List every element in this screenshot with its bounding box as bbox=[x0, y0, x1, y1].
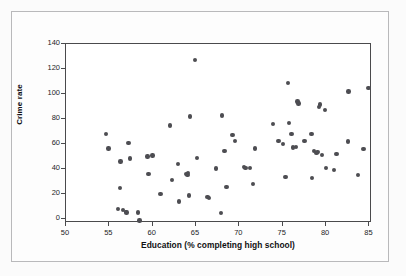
scatter-point bbox=[302, 139, 306, 143]
scatter-point bbox=[106, 146, 110, 150]
scatter-point bbox=[124, 210, 128, 214]
scatter-point bbox=[310, 176, 314, 180]
scatter-point bbox=[315, 150, 319, 154]
scatter-point bbox=[118, 159, 122, 163]
scatter-point bbox=[224, 185, 228, 189]
x-tick-label: 65 bbox=[180, 228, 210, 237]
x-tick-mark bbox=[152, 222, 153, 226]
scatter-point bbox=[356, 173, 360, 177]
scatter-point bbox=[128, 156, 132, 160]
scatter-point bbox=[158, 192, 162, 196]
scatter-point bbox=[289, 132, 293, 136]
scatter-point bbox=[104, 132, 108, 136]
scatter-point bbox=[220, 113, 224, 117]
scatter-point bbox=[253, 146, 257, 150]
scatter-point bbox=[251, 182, 255, 186]
y-tick-label: 20 bbox=[52, 189, 60, 197]
y-axis-title: Crime rate bbox=[15, 60, 24, 150]
scatter-point bbox=[188, 114, 192, 118]
y-tick-mark bbox=[61, 43, 65, 44]
scatter-point bbox=[294, 145, 298, 149]
scatter-point bbox=[271, 122, 275, 126]
y-tick-mark bbox=[61, 218, 65, 219]
scatter-point bbox=[222, 149, 226, 153]
scatter-point bbox=[334, 152, 338, 156]
scatter-point bbox=[137, 218, 141, 222]
scatter-point bbox=[346, 139, 350, 143]
scatter-point bbox=[214, 166, 218, 170]
scatter-point bbox=[248, 166, 252, 170]
x-tick-mark bbox=[282, 222, 283, 226]
x-tick-mark bbox=[368, 222, 369, 226]
scatter-point bbox=[230, 133, 234, 137]
x-tick-label: 60 bbox=[137, 228, 167, 237]
scatter-point bbox=[187, 193, 191, 197]
scatter-point bbox=[146, 172, 150, 176]
y-tick-label: 120 bbox=[47, 64, 60, 72]
y-tick-mark bbox=[61, 93, 65, 94]
scatter-point bbox=[145, 154, 149, 158]
scatter-point bbox=[281, 142, 285, 146]
page-background: 020406080100120140 Crime rate Education … bbox=[0, 0, 406, 276]
y-tick-mark bbox=[61, 118, 65, 119]
scatter-point bbox=[346, 89, 350, 93]
y-tick-label: 100 bbox=[47, 89, 60, 97]
scatter-point bbox=[193, 58, 197, 62]
scatter-point bbox=[168, 123, 172, 127]
scatter-point bbox=[126, 141, 130, 145]
y-tick-mark bbox=[61, 68, 65, 69]
x-tick-label: 55 bbox=[93, 228, 123, 237]
scatter-point bbox=[296, 101, 300, 105]
x-axis-title: Education (% completing high school) bbox=[65, 240, 371, 250]
scatter-point bbox=[276, 139, 280, 143]
scatter-point bbox=[195, 156, 199, 160]
scatter-point bbox=[118, 186, 122, 190]
scatter-point bbox=[320, 153, 324, 157]
scatter-point bbox=[176, 162, 180, 166]
scatter-point bbox=[207, 196, 211, 200]
y-tick-label: 0 bbox=[56, 214, 60, 222]
y-tick-mark bbox=[61, 193, 65, 194]
scatter-point bbox=[323, 108, 327, 112]
scatter-point bbox=[287, 121, 291, 125]
y-tick-label: 40 bbox=[52, 164, 60, 172]
x-tick-label: 80 bbox=[310, 228, 340, 237]
x-tick-mark bbox=[108, 222, 109, 226]
scatter-points-layer bbox=[66, 44, 370, 221]
scatter-point bbox=[318, 102, 322, 106]
scatter-point bbox=[136, 210, 140, 214]
scatter-point bbox=[286, 81, 290, 85]
scatter-point bbox=[324, 166, 328, 170]
x-tick-label: 50 bbox=[50, 228, 80, 237]
scatter-point bbox=[233, 139, 237, 143]
y-tick-label: 80 bbox=[52, 114, 60, 122]
scatter-point bbox=[361, 147, 365, 151]
y-tick-label: 60 bbox=[52, 139, 60, 147]
scatter-point bbox=[283, 175, 287, 179]
x-tick-label: 70 bbox=[223, 228, 253, 237]
x-tick-mark bbox=[195, 222, 196, 226]
scatter-point bbox=[116, 207, 120, 211]
scatter-point bbox=[332, 168, 336, 172]
plot-area bbox=[65, 43, 371, 222]
scatter-point bbox=[170, 178, 174, 182]
x-tick-mark bbox=[238, 222, 239, 226]
y-tick-label: 140 bbox=[47, 39, 60, 47]
y-tick-mark bbox=[61, 143, 65, 144]
scatter-point bbox=[366, 86, 370, 90]
scatter-point bbox=[219, 211, 223, 215]
scatter-point bbox=[150, 153, 154, 157]
x-tick-mark bbox=[325, 222, 326, 226]
x-tick-label: 75 bbox=[267, 228, 297, 237]
scatter-point bbox=[186, 171, 190, 175]
scatter-point bbox=[177, 199, 181, 203]
scatter-point bbox=[243, 166, 247, 170]
x-tick-label: 85 bbox=[353, 228, 383, 237]
y-tick-mark bbox=[61, 168, 65, 169]
x-tick-mark bbox=[65, 222, 66, 226]
scatter-point bbox=[309, 132, 313, 136]
